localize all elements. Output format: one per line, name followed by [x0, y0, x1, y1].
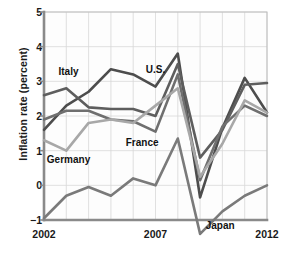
x-tick-label: 2002 [32, 228, 55, 240]
series-label-france: France [126, 137, 159, 148]
series-label-japan: Japan [206, 220, 235, 231]
plot-area [0, 0, 283, 253]
series-label-italy: Italy [59, 65, 79, 76]
series-label-germany: Germany [47, 154, 90, 165]
x-tick-label: 2007 [144, 228, 167, 240]
series-label-u-s: U.S. [146, 64, 165, 75]
x-tick-label: 2012 [255, 228, 278, 240]
inflation-rate-line-chart: Inflation rate (percent) 543210−1 200220… [0, 0, 283, 253]
